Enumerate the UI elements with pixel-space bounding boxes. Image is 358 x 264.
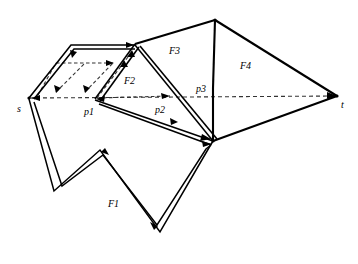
arrow-funnel-down-left — [54, 85, 61, 93]
inner-funnel-diag-left — [56, 63, 85, 92]
f1-outer-boundary — [29, 99, 213, 232]
outer-funnel-corridor — [29, 45, 136, 99]
face-f1-corridor — [29, 99, 213, 232]
label-face-f4: F4 — [239, 60, 251, 71]
face-f4-outline — [213, 20, 337, 141]
label-port-p1: p1 — [83, 106, 94, 117]
figure-canvas: s t p1 p2 p3 F1 F2 F3 F4 — [0, 0, 358, 264]
arrow-inner-run-right — [106, 60, 114, 66]
chain-lower-outer — [95, 100, 213, 141]
arrow-f2-dash-out — [161, 93, 170, 99]
funnel-upper-outer — [29, 45, 136, 98]
label-target: t — [341, 99, 344, 110]
f2-left-edge-outer — [95, 44, 135, 99]
vertex-s-dot — [27, 96, 30, 99]
arrow-chain-mid — [170, 118, 178, 125]
label-source: s — [17, 103, 21, 114]
vertex-t-dot — [335, 94, 338, 97]
label-face-f2: F2 — [123, 75, 135, 86]
geometry-diagram: s t p1 p2 p3 F1 F2 F3 F4 — [0, 0, 358, 264]
f1-inner-boundary — [34, 102, 211, 225]
f3-left-edge — [135, 20, 215, 44]
label-port-p3: p3 — [195, 83, 206, 94]
direction-arrowheads — [31, 42, 337, 230]
label-port-p2: p2 — [154, 104, 165, 115]
arrow-funnel-down-right — [83, 85, 90, 93]
chain-p1-to-hub — [95, 100, 213, 145]
vertex-apex-dot — [213, 18, 216, 21]
f4-bottom-edge — [213, 96, 337, 141]
vertex-markers — [27, 18, 338, 142]
f4-top-edge — [215, 20, 337, 96]
label-face-f3: F3 — [168, 45, 180, 56]
label-face-f1: F1 — [107, 198, 119, 209]
vertex-hub-dot — [211, 139, 214, 142]
arrow-funnel-up-left — [70, 50, 77, 58]
f3-right-edge — [213, 20, 215, 88]
